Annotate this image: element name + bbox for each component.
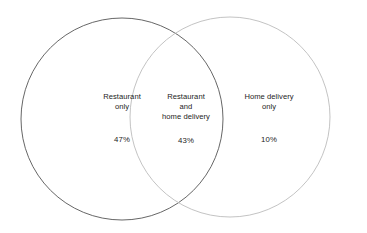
region-home-delivery-only-percent: 10% <box>212 135 326 145</box>
region-home-delivery-only-line1: Home delivery <box>212 92 326 102</box>
region-home-delivery-only-line2: only <box>212 102 326 112</box>
venn-diagram-canvas: Restaurant only 47% Restaurant and home … <box>0 0 367 233</box>
region-home-delivery-only: Home delivery only 10% <box>212 92 326 146</box>
